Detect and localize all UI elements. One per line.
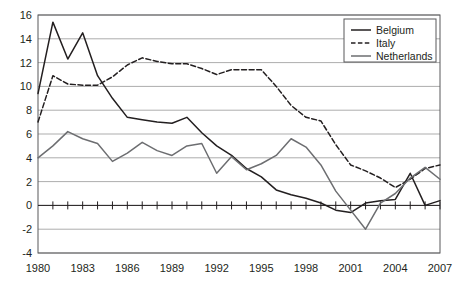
y-tick-label: 10 <box>20 80 32 92</box>
legend-label-belgium: Belgium <box>376 24 414 36</box>
x-tick-label: 1983 <box>70 262 94 274</box>
x-tick-label: 1992 <box>204 262 228 274</box>
series-line-netherlands <box>38 132 440 230</box>
x-tick-label: 2007 <box>428 262 452 274</box>
x-axis-tick-labels: 1980198319861989199219951998200120042007 <box>26 262 452 274</box>
y-tick-label: 14 <box>20 33 32 45</box>
y-axis-tick-labels: 1614121086420-2-4 <box>20 9 32 259</box>
x-tick-label: 1989 <box>160 262 184 274</box>
y-tick-label: 8 <box>26 104 32 116</box>
legend-label-netherlands: Netherlands <box>376 50 433 62</box>
y-tick-label: 6 <box>26 128 32 140</box>
x-tick-label: 1986 <box>115 262 139 274</box>
y-tick-label: 12 <box>20 57 32 69</box>
y-tick-label: 4 <box>26 152 32 164</box>
y-tick-label: -4 <box>22 247 32 259</box>
y-tick-label: 16 <box>20 9 32 21</box>
x-tick-label: 1998 <box>294 262 318 274</box>
x-tick-label: 2001 <box>338 262 362 274</box>
x-tick-label: 2004 <box>383 262 407 274</box>
chart-legend: BelgiumItalyNetherlands <box>344 19 436 62</box>
y-tick-label: -2 <box>22 223 32 235</box>
chart-canvas: 1614121086420-2-4 1980198319861989199219… <box>0 0 460 285</box>
x-tick-label: 1980 <box>26 262 50 274</box>
y-tick-label: 2 <box>26 176 32 188</box>
line-chart: 1614121086420-2-4 1980198319861989199219… <box>0 0 460 285</box>
legend-label-italy: Italy <box>376 37 396 49</box>
x-tick-label: 1995 <box>249 262 273 274</box>
y-tick-label: 0 <box>26 199 32 211</box>
